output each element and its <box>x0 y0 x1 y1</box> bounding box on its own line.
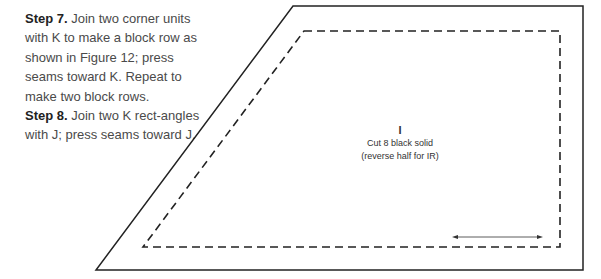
grainline-arrow-icon <box>452 235 543 239</box>
piece-letter: I <box>330 124 470 137</box>
pattern-piece-label: I Cut 8 black solid (reverse half for IR… <box>330 124 470 163</box>
cut-instruction: Cut 8 black solid <box>330 137 470 150</box>
pattern-piece-diagram <box>0 0 601 279</box>
reverse-instruction: (reverse half for IR) <box>330 150 470 163</box>
